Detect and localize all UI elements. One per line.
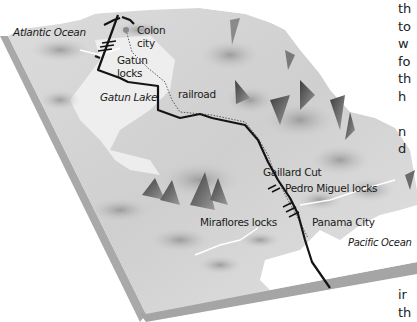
label-pedro-miguel-locks: Pedro Miguel locks [285, 182, 377, 194]
label-panama-city: Panama City [312, 216, 375, 228]
label-atlantic-ocean: Atlantic Ocean [13, 26, 86, 38]
side-text-line: h [398, 88, 411, 106]
side-text-line: n [398, 123, 411, 141]
side-text-column-top: th to w fo th h n d [398, 0, 411, 158]
side-text-gap [398, 105, 411, 123]
side-text-line: th [398, 304, 411, 322]
label-gatun-locks-line2: locks [117, 67, 142, 79]
label-gatun-locks-line1: Gatun [117, 54, 148, 66]
side-text-line: ir [398, 286, 411, 304]
label-colon-city-line1: Colon [137, 24, 165, 36]
label-colon-city-line2: city [137, 37, 155, 49]
label-miraflores-locks: Miraflores locks [200, 216, 277, 228]
side-text-line: to [398, 18, 411, 36]
side-text-line: fo [398, 53, 411, 71]
side-text-line: th [398, 0, 411, 18]
label-gaillard-cut: Gaillard Cut [263, 166, 321, 178]
label-railroad: railroad [178, 88, 216, 100]
label-gatun-lake: Gatun Lake [100, 91, 157, 103]
label-pacific-ocean: Pacific Ocean [348, 237, 412, 249]
colon-city-marker [123, 27, 129, 33]
side-text-line: d [398, 140, 411, 158]
side-text-line: th [398, 70, 411, 88]
terrain-block [0, 0, 417, 322]
panama-canal-diagram: Atlantic Ocean Colon city Gatun locks Ga… [0, 0, 417, 322]
side-text-line: w [398, 35, 411, 53]
side-text-column-bottom: ir th [398, 286, 411, 321]
